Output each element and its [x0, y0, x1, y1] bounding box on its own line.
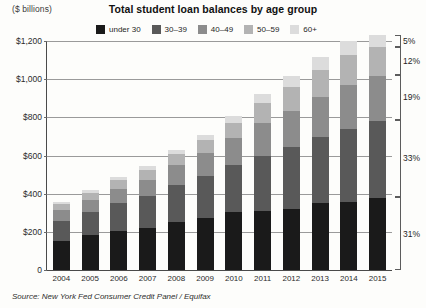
bar-segment-30-39[interactable]: [53, 221, 70, 241]
bar-group-2008[interactable]: 2008: [162, 41, 191, 270]
stacked-bar[interactable]: [225, 116, 242, 270]
bar-group-2013[interactable]: 2013: [306, 41, 335, 270]
bar-segment-40-49[interactable]: [312, 97, 329, 137]
stacked-bar[interactable]: [283, 76, 300, 270]
bar-group-2004[interactable]: 2004: [47, 41, 76, 270]
bar-segment-30-39[interactable]: [225, 165, 242, 213]
stacked-bar[interactable]: [340, 41, 357, 270]
y-axis-tick-label: $1,200: [16, 36, 42, 46]
bar-segment-40-49[interactable]: [225, 138, 242, 165]
bar-segment-50-59[interactable]: [82, 193, 99, 200]
bar-segment-40-49[interactable]: [139, 180, 156, 196]
bar-segment-50-59[interactable]: [283, 87, 300, 111]
source-note: Source: New York Fed Consumer Credit Pan…: [12, 292, 211, 301]
bar-segment-30-39[interactable]: [254, 156, 271, 211]
bar-segment-40-49[interactable]: [197, 153, 214, 176]
annotation-percent-label: 5%: [403, 36, 415, 46]
bar-segment-50-59[interactable]: [312, 70, 329, 97]
bar-segment-40-49[interactable]: [110, 189, 127, 204]
bar-segment-30-39[interactable]: [139, 196, 156, 228]
bar-segment-50-59[interactable]: [197, 140, 214, 153]
legend-label: 30–39: [165, 25, 187, 34]
bar-segment-under-30[interactable]: [139, 228, 156, 270]
bar-group-2015[interactable]: 2015: [363, 41, 392, 270]
bar-segment-under-30[interactable]: [53, 241, 70, 270]
bar-segment-40-49[interactable]: [369, 76, 386, 121]
bar-segment-under-30[interactable]: [369, 198, 386, 270]
bar-segment-50-59[interactable]: [254, 103, 271, 123]
bar-segment-40-49[interactable]: [53, 210, 70, 221]
bar-segment-30-39[interactable]: [369, 121, 386, 198]
legend-item-40-49: 40–49: [198, 25, 233, 34]
legend-item-60-: 60+: [290, 25, 317, 34]
bar-segment-under-30[interactable]: [225, 212, 242, 270]
bar-segment-60-[interactable]: [254, 94, 271, 103]
bar-segment-40-49[interactable]: [168, 165, 185, 185]
bar-group-2011[interactable]: 2011: [248, 41, 277, 270]
bar-group-2014[interactable]: 2014: [335, 41, 364, 270]
legend-swatch-icon: [96, 25, 105, 34]
bar-segment-50-59[interactable]: [340, 55, 357, 85]
bar-segment-50-59[interactable]: [369, 47, 386, 76]
legend-swatch-icon: [198, 25, 207, 34]
legend-swatch-icon: [244, 25, 253, 34]
bar-segment-40-49[interactable]: [283, 111, 300, 148]
stacked-bar[interactable]: [197, 135, 214, 270]
stacked-bar[interactable]: [53, 202, 70, 270]
legend-swatch-icon: [290, 25, 299, 34]
bar-segment-60-[interactable]: [340, 41, 357, 55]
x-axis-tick-label: 2006: [105, 274, 134, 283]
bar-group-2006[interactable]: 2006: [105, 41, 134, 270]
bar-segment-40-49[interactable]: [82, 200, 99, 212]
bar-segment-50-59[interactable]: [168, 154, 185, 165]
legend-label: under 30: [109, 25, 141, 34]
bar-segment-under-30[interactable]: [110, 231, 127, 270]
legend-label: 40–49: [211, 25, 233, 34]
x-axis-tick-label: 2015: [363, 274, 392, 283]
bar-segment-under-30[interactable]: [312, 203, 329, 270]
legend-item-under-30: under 30: [96, 25, 141, 34]
annotation-percent-label: 31%: [403, 229, 420, 239]
bar-segment-60-[interactable]: [225, 116, 242, 123]
bar-segment-50-59[interactable]: [139, 170, 156, 179]
bar-segment-50-59[interactable]: [110, 180, 127, 188]
stacked-bar[interactable]: [254, 94, 271, 270]
y-axis-tick: [44, 270, 47, 271]
x-axis-tick-label: 2012: [277, 274, 306, 283]
bar-segment-60-[interactable]: [283, 76, 300, 87]
bar-segment-under-30[interactable]: [283, 209, 300, 270]
bar-segment-50-59[interactable]: [225, 123, 242, 138]
bar-group-2012[interactable]: 2012: [277, 41, 306, 270]
x-axis-tick-label: 2010: [220, 274, 249, 283]
bar-segment-30-39[interactable]: [168, 185, 185, 222]
bar-segment-under-30[interactable]: [197, 218, 214, 270]
stacked-bar[interactable]: [110, 177, 127, 270]
bar-segment-under-30[interactable]: [82, 235, 99, 270]
bar-group-2010[interactable]: 2010: [220, 41, 249, 270]
bar-group-2007[interactable]: 2007: [133, 41, 162, 270]
bar-segment-40-49[interactable]: [340, 85, 357, 129]
x-axis-tick-label: 2011: [248, 274, 277, 283]
stacked-bar[interactable]: [312, 57, 329, 270]
bar-segment-40-49[interactable]: [254, 123, 271, 155]
stacked-bar[interactable]: [168, 150, 185, 270]
bar-segment-60-[interactable]: [312, 57, 329, 70]
bar-segment-30-39[interactable]: [340, 129, 357, 202]
bar-group-2009[interactable]: 2009: [191, 41, 220, 270]
stacked-bar[interactable]: [369, 35, 386, 270]
bar-segment-30-39[interactable]: [283, 147, 300, 208]
stacked-bar[interactable]: [139, 166, 156, 270]
bar-group-2005[interactable]: 2005: [76, 41, 105, 270]
bar-segment-under-30[interactable]: [168, 222, 185, 270]
bar-segment-30-39[interactable]: [82, 212, 99, 235]
bar-segment-under-30[interactable]: [340, 202, 357, 270]
bar-segment-30-39[interactable]: [312, 137, 329, 203]
bar-segment-60-[interactable]: [369, 35, 386, 47]
x-axis-tick-label: 2014: [335, 274, 364, 283]
bar-segment-under-30[interactable]: [254, 211, 271, 270]
annotation-bracket: [395, 35, 401, 47]
x-axis-tick-label: 2005: [76, 274, 105, 283]
bar-segment-30-39[interactable]: [197, 176, 214, 218]
bar-segment-30-39[interactable]: [110, 203, 127, 231]
stacked-bar[interactable]: [82, 190, 99, 270]
